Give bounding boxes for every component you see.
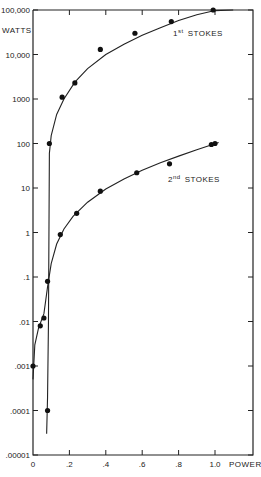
chart: 100,00010,0001000100101.1.01.001.0001.00… (0, 0, 261, 477)
x-axis-title: POWER (229, 460, 261, 469)
series-label-1: 1stSTOKES (173, 28, 223, 38)
x-tick-label: .2 (66, 460, 73, 469)
x-tick-label: .6 (139, 460, 146, 469)
data-point (45, 279, 50, 284)
axis-box (33, 10, 253, 455)
data-point (38, 323, 43, 328)
y-axis-title: WATTS (2, 26, 32, 35)
x-tick-label: .4 (102, 460, 109, 469)
y-tick-label: 10 (21, 184, 30, 193)
fit-curves (33, 10, 233, 434)
series-labels: 1stSTOKES2ndSTOKES (168, 28, 223, 184)
y-tick-label: .00001 (6, 451, 31, 460)
data-point (47, 141, 52, 146)
data-point (45, 408, 50, 413)
y-tick-label: 1000 (12, 95, 30, 104)
x-tick-label: 0 (31, 460, 36, 469)
data-point (30, 363, 35, 368)
y-tick-label: .1 (23, 273, 30, 282)
data-point (132, 31, 137, 36)
y-tick-label: 100 (17, 140, 31, 149)
y-tick-label: 1 (26, 229, 31, 238)
y-tick-label: 10,000 (6, 51, 31, 60)
fit-curve-1 (47, 10, 234, 434)
x-tick-label: 1.0 (209, 460, 221, 469)
y-tick-label: 100,000 (1, 6, 30, 15)
data-point (74, 211, 79, 216)
data-point (167, 161, 172, 166)
plot-frame (33, 10, 253, 455)
data-point (211, 7, 216, 12)
y-tick-label: .0001 (10, 407, 31, 416)
x-tick-label: .8 (175, 460, 182, 469)
data-point (41, 315, 46, 320)
data-point (60, 95, 65, 100)
y-tick-label: .001 (14, 362, 30, 371)
series-label-2: 2ndSTOKES (168, 174, 220, 184)
data-points (30, 7, 217, 413)
y-tick-label: .01 (19, 318, 31, 327)
data-point (58, 232, 63, 237)
data-point (98, 47, 103, 52)
y-axis-ticks: 100,00010,0001000100101.1.01.001.0001.00… (1, 6, 253, 460)
data-point (134, 170, 139, 175)
data-point (212, 141, 217, 146)
data-point (169, 19, 174, 24)
data-point (98, 189, 103, 194)
data-point (72, 80, 77, 85)
